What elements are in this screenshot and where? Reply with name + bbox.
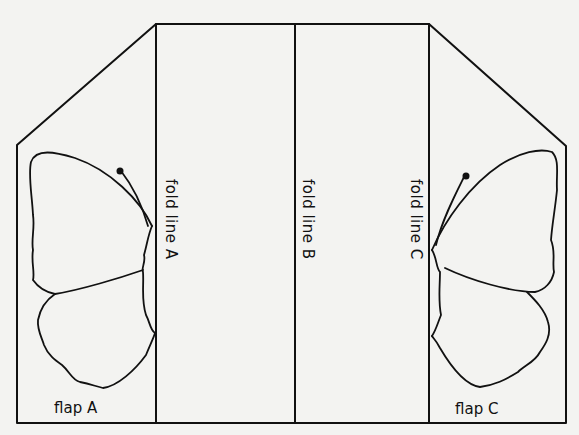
template-diagram: fold line A fold line B fold line C flap…: [0, 0, 579, 435]
outline: [17, 24, 566, 423]
left-butterfly-half: [30, 153, 155, 389]
left-antenna-tip: [117, 168, 124, 175]
right-butterfly-half: [432, 151, 557, 387]
fold-line-b-label: fold line B: [299, 179, 317, 260]
flap-a-label: flap A: [54, 399, 98, 417]
fold-line-c-label: fold line C: [407, 179, 425, 260]
flap-c-label: flap C: [455, 400, 498, 418]
fold-line-a-label: fold line A: [162, 179, 180, 260]
right-antenna-tip: [463, 173, 470, 180]
